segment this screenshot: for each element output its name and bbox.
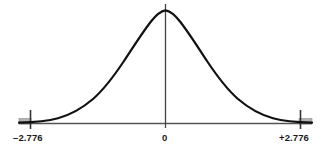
x-axis-tick-label-zero: 0 [162, 133, 167, 143]
distribution-chart: –2.776 0 +2.776 [0, 0, 330, 155]
x-axis-tick-label-upper-critical: +2.776 [279, 133, 309, 143]
x-axis-tick-label-lower-critical: –2.776 [13, 133, 43, 143]
